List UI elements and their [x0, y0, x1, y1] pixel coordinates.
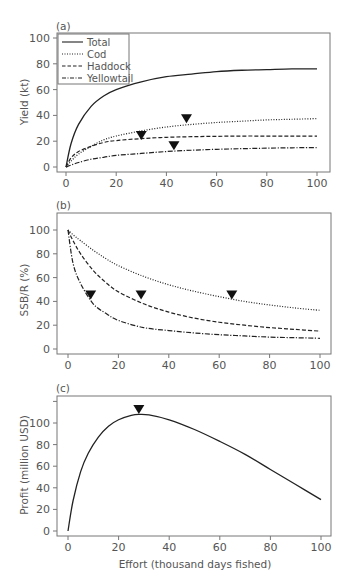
y-tick-label: 0: [43, 525, 50, 538]
series-line-yellowtail: [66, 148, 317, 167]
panel-a-y-axis-title: Yield (kt): [18, 79, 30, 127]
panel-b-x-ticks: 020406080100: [65, 354, 331, 372]
x-tick-label: 20: [112, 541, 126, 554]
panel-a-x-ticks: 020406080100: [63, 172, 328, 190]
y-tick-label: 40: [36, 482, 50, 495]
panel-a-y-ticks: 020406080100: [29, 32, 57, 174]
x-tick-label: 80: [263, 359, 277, 372]
panel-c-series: [68, 414, 321, 531]
x-tick-label: 40: [159, 177, 173, 190]
y-tick-label: 60: [36, 84, 50, 97]
legend-label-haddock: Haddock: [87, 61, 131, 72]
panel-b-ssbr: (b) 020406080100 020406080100 SSB/R (%): [18, 199, 331, 372]
series-line-cod: [68, 230, 320, 310]
y-tick-label: 100: [29, 224, 50, 237]
x-tick-label: 60: [213, 541, 227, 554]
panel-c-label: (c): [56, 382, 70, 394]
panel-b-y-ticks: 020406080100: [29, 224, 57, 356]
y-tick-label: 80: [36, 439, 50, 452]
legend: Total Cod Haddock Yellowtail: [58, 34, 133, 84]
y-tick-label: 100: [29, 32, 50, 45]
panel-b-y-axis-title: SSB/R (%): [18, 264, 30, 317]
marker-triangle-icon: [168, 141, 179, 150]
figure: (a) 020406080100 020406080100 Yield (kt)…: [0, 0, 349, 585]
x-tick-label: 60: [210, 177, 224, 190]
panel-b-series: [68, 230, 320, 338]
y-tick-label: 40: [36, 109, 50, 122]
series-line-yellowtail: [68, 230, 320, 338]
marker-triangle-icon: [226, 290, 237, 299]
x-tick-label: 100: [311, 541, 332, 554]
y-tick-label: 60: [36, 460, 50, 473]
marker-triangle-icon: [136, 290, 147, 299]
y-tick-label: 20: [36, 503, 50, 516]
panel-c-markers: [133, 405, 144, 414]
x-tick-label: 40: [162, 359, 176, 372]
series-line-haddock: [68, 230, 320, 331]
panel-a-markers: [136, 114, 192, 150]
panel-c-y-axis-title: Profit (million USD): [18, 415, 30, 515]
y-tick-label: 80: [36, 58, 50, 71]
y-tick-label: 20: [36, 135, 50, 148]
panel-a-label: (a): [56, 20, 71, 32]
panel-c-x-ticks: 020406080100: [65, 536, 332, 554]
x-tick-label: 0: [65, 359, 72, 372]
x-tick-label: 100: [307, 177, 328, 190]
y-tick-label: 60: [36, 272, 50, 285]
panel-c-profit: (c) 020406080100 020406080100 Profit (mi…: [18, 382, 332, 570]
y-tick-label: 80: [36, 248, 50, 261]
x-tick-label: 0: [65, 541, 72, 554]
marker-triangle-icon: [133, 405, 144, 414]
panel-b-frame: [57, 213, 331, 354]
x-tick-label: 80: [260, 177, 274, 190]
panel-a-yield: (a) 020406080100 020406080100 Yield (kt)…: [18, 20, 330, 190]
x-tick-label: 20: [111, 359, 125, 372]
panel-b-markers: [85, 290, 237, 299]
marker-triangle-icon: [181, 114, 192, 123]
y-tick-label: 0: [43, 161, 50, 174]
series-line-cod: [66, 119, 317, 167]
panel-b-label: (b): [56, 199, 71, 211]
x-tick-label: 100: [310, 359, 331, 372]
y-tick-label: 100: [29, 417, 50, 430]
y-tick-label: 40: [36, 295, 50, 308]
series-line-haddock: [66, 136, 317, 167]
legend-label-yellowtail: Yellowtail: [86, 73, 133, 84]
panel-c-frame: [57, 396, 331, 536]
x-tick-label: 0: [63, 177, 70, 190]
x-axis-title: Effort (thousand days fished): [119, 558, 272, 570]
panel-c-y-ticks: 020406080100: [29, 401, 57, 538]
x-tick-label: 80: [263, 541, 277, 554]
y-tick-label: 20: [36, 319, 50, 332]
x-tick-label: 40: [162, 541, 176, 554]
legend-label-cod: Cod: [87, 49, 106, 60]
series-line-profit: [68, 414, 321, 531]
x-tick-label: 60: [212, 359, 226, 372]
legend-label-total: Total: [86, 37, 110, 48]
x-tick-label: 20: [109, 177, 123, 190]
y-tick-label: 0: [43, 343, 50, 356]
